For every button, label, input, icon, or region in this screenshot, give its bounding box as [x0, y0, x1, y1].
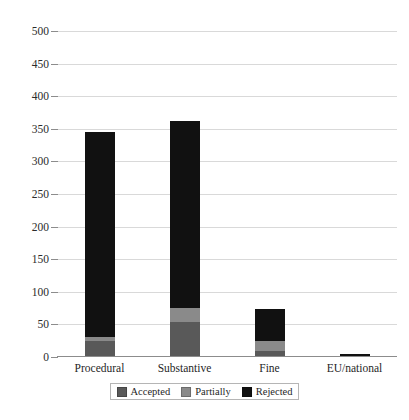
legend-label: Accepted — [131, 386, 171, 397]
x-label-eu-national: EU/national — [312, 362, 397, 374]
y-tick-label-450: 450 — [5, 59, 49, 71]
chart-legend: AcceptedPartiallyRejected — [110, 383, 300, 400]
y-tick-label-250: 250 — [5, 189, 49, 201]
bar-group[interactable] — [170, 121, 200, 357]
y-tick-mark-250 — [51, 194, 58, 195]
legend-item-partially[interactable]: Partially — [181, 386, 231, 397]
y-tick-label-350: 350 — [5, 124, 49, 136]
legend-item-rejected[interactable]: Rejected — [242, 386, 293, 397]
bar-segment-accepted[interactable] — [170, 322, 200, 357]
bar-segment-rejected[interactable] — [85, 132, 115, 337]
plot-area — [57, 31, 397, 357]
x-axis-line — [57, 356, 397, 357]
x-label-substantive: Substantive — [142, 362, 227, 374]
y-tick-mark-350 — [51, 129, 58, 130]
bar-segment-partially[interactable] — [255, 341, 285, 351]
y-tick-mark-400 — [51, 96, 58, 97]
bar-group[interactable] — [85, 132, 115, 357]
y-tick-mark-100 — [51, 292, 58, 293]
x-label-procedural: Procedural — [57, 362, 142, 374]
y-tick-label-0: 0 — [5, 352, 49, 364]
bar-segment-rejected[interactable] — [255, 309, 285, 342]
y-tick-mark-300 — [51, 161, 58, 162]
y-tick-label-150: 150 — [5, 254, 49, 266]
bar-group[interactable] — [255, 309, 285, 357]
bar-segment-partially[interactable] — [170, 308, 200, 322]
y-tick-label-200: 200 — [5, 222, 49, 234]
y-tick-label-400: 400 — [5, 91, 49, 103]
x-label-fine: Fine — [227, 362, 312, 374]
bar-segment-rejected[interactable] — [170, 121, 200, 308]
y-tick-mark-0 — [51, 357, 58, 358]
y-tick-mark-500 — [51, 31, 58, 32]
stacked-bar-chart: 050100150200250300350400450500 Procedura… — [0, 0, 409, 420]
bar-series-container — [57, 31, 397, 357]
legend-item-accepted[interactable]: Accepted — [117, 386, 171, 397]
y-tick-mark-50 — [51, 324, 58, 325]
legend-label: Partially — [195, 386, 231, 397]
y-tick-mark-150 — [51, 259, 58, 260]
legend-swatch-partially-icon — [181, 387, 191, 397]
y-tick-label-50: 50 — [5, 319, 49, 331]
y-tick-mark-200 — [51, 227, 58, 228]
y-tick-label-100: 100 — [5, 287, 49, 299]
y-tick-label-300: 300 — [5, 156, 49, 168]
y-tick-label-500: 500 — [5, 26, 49, 38]
bar-segment-accepted[interactable] — [85, 341, 115, 357]
legend-label: Rejected — [256, 386, 293, 397]
legend-swatch-rejected-icon — [242, 387, 252, 397]
legend-swatch-accepted-icon — [117, 387, 127, 397]
y-tick-mark-450 — [51, 64, 58, 65]
